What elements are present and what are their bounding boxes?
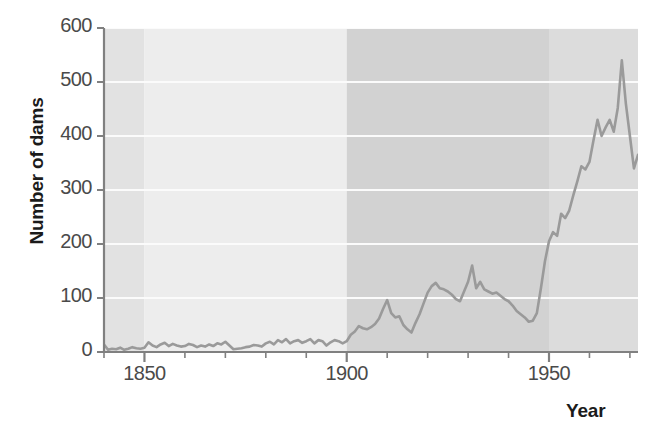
y-tick-label-200: 200 (30, 230, 92, 253)
y-tick-label-500: 500 (30, 68, 92, 91)
y-tick-label-100: 100 (30, 284, 92, 307)
y-tick-label-600: 600 (30, 14, 92, 37)
y-tick-marks (97, 28, 104, 352)
y-tick-label-300: 300 (30, 176, 92, 199)
x-axis-title: Year (566, 400, 605, 422)
plot-area (104, 28, 638, 352)
cropped-title-remnant (130, 0, 600, 7)
chart-svg (104, 28, 638, 352)
x-tick-label-1950: 1950 (528, 362, 571, 385)
x-tick-label-1850: 1850 (123, 362, 166, 385)
y-tick-label-400: 400 (30, 122, 92, 145)
x-tick-marks (104, 352, 630, 362)
y-axis-tick-labels: 0100200300400500600 (30, 0, 92, 436)
y-tick-label-0: 0 (30, 338, 92, 361)
x-tick-label-1900: 1900 (325, 362, 368, 385)
dam-construction-line-chart: Number of dams Year 0100200300400500600 … (0, 0, 653, 436)
